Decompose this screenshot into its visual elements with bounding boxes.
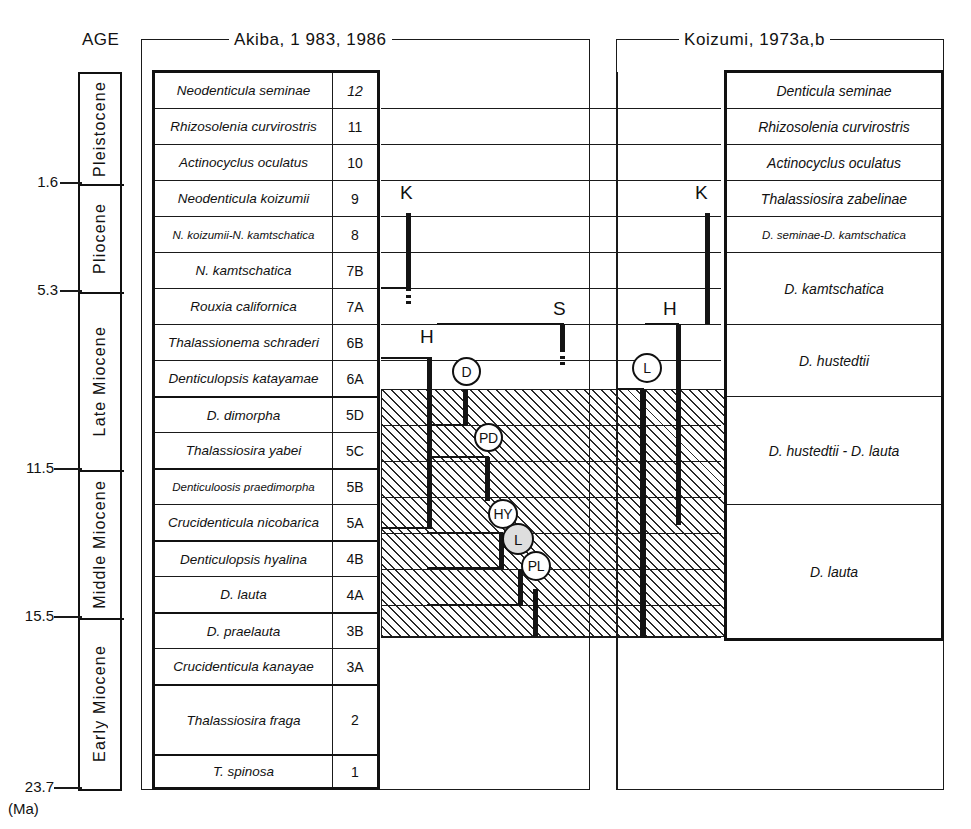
circle-marker-d[interactable]: D: [452, 357, 481, 386]
diagram-canvas: AGE Pleistocene Pliocene Late Miocene Mi…: [0, 0, 971, 829]
tie-line: [381, 360, 721, 361]
marker-label: PL: [528, 558, 545, 574]
bar-dash: [406, 295, 411, 298]
epoch-cell-middle-miocene: Middle Miocene: [80, 470, 120, 618]
correlation-bar-h-left: [427, 357, 432, 529]
table-row[interactable]: D. praelauta 3B: [155, 612, 377, 648]
zone-name: Denticula seminae: [727, 83, 941, 99]
akiba-header-label: Akiba, 1 983, 1986: [229, 30, 392, 50]
zone-name: Actinocyclus oculatus: [727, 155, 941, 171]
table-row[interactable]: Crucidenticula kanayae 3A: [155, 648, 377, 684]
table-row[interactable]: N. kamtschatica 7B: [155, 252, 377, 288]
age-tick-1.6: 1.6: [8, 173, 58, 190]
correlation-bar-d: [463, 389, 468, 425]
correlation-elbow-hy-bottom: [427, 567, 503, 569]
table-row[interactable]: D. lauta: [727, 504, 941, 638]
table-row[interactable]: Denticulopsis hyalina 4B: [155, 540, 377, 576]
gap-guide-line: [589, 72, 590, 790]
marker-label: L: [643, 360, 651, 376]
correlation-elbow-h-right: [645, 323, 679, 325]
circle-marker-pd[interactable]: PD: [474, 423, 503, 452]
table-row[interactable]: D. kamtschatica: [727, 252, 941, 324]
table-row[interactable]: D. hustedtii: [727, 324, 941, 396]
overlap-hatched-region: [381, 389, 725, 637]
akiba-zone-table: Neodenticula seminae 12 Rhizosolenia cur…: [152, 70, 380, 790]
zone-name: N. koizumii-N. kamtschatica: [155, 229, 332, 241]
table-row[interactable]: Rhizosolenia curvirostris 11: [155, 108, 377, 144]
zone-name: N. kamtschatica: [155, 263, 332, 278]
koizumi-zone-table: Denticula seminae Rhizosolenia curvirost…: [724, 70, 944, 641]
table-row[interactable]: Thalassionema schraderi 6B: [155, 324, 377, 360]
zone-name: D. lauta: [727, 564, 941, 580]
table-row[interactable]: Denticulopsis katayamae 6A: [155, 360, 377, 396]
correlation-elbow-l-right: [617, 388, 644, 390]
age-tick-mark: [54, 468, 82, 470]
table-row[interactable]: D. dimorpha 5D: [155, 396, 377, 432]
table-row[interactable]: Crucidenticula nicobarica 5A: [155, 504, 377, 540]
tie-line: [381, 569, 721, 570]
table-row[interactable]: Actinocyclus oculatus: [727, 144, 941, 180]
zone-name: D. praelauta: [155, 624, 332, 639]
zone-name: D. hustedtii - D. lauta: [727, 443, 941, 459]
zone-number: 4A: [332, 577, 377, 612]
table-row[interactable]: Thalassiosira yabei 5C: [155, 432, 377, 468]
table-row[interactable]: N. koizumii-N. kamtschatica 8: [155, 216, 377, 252]
zone-number: 2: [332, 686, 377, 754]
zone-number: 5D: [332, 398, 377, 432]
table-row[interactable]: Neodenticula seminae 12: [155, 73, 377, 108]
table-row[interactable]: Thalassiosira zabelinae: [727, 180, 941, 216]
zone-number: 5A: [332, 505, 377, 540]
table-row[interactable]: D. hustedtii - D. lauta: [727, 396, 941, 504]
tie-line: [381, 389, 721, 390]
epoch-label: Pleistocene: [91, 81, 109, 177]
marker-label: PD: [479, 430, 498, 446]
table-row[interactable]: Neodenticula koizumii 9: [155, 180, 377, 216]
table-row[interactable]: D. seminae-D. kamtschatica: [727, 216, 941, 252]
bar-label-k-left: K: [400, 182, 413, 204]
circle-marker-l-center[interactable]: L: [502, 523, 534, 555]
zone-name: Rhizosolenia curvirostris: [727, 119, 941, 135]
marker-label: D: [462, 364, 472, 380]
bar-label-k-right: K: [695, 182, 708, 204]
age-tick-mark: [54, 787, 82, 789]
correlation-elbow-pl: [427, 604, 522, 606]
epoch-cell-pliocene: Pliocene: [80, 184, 120, 292]
table-row[interactable]: Actinocyclus oculatus 10: [155, 144, 377, 180]
table-row[interactable]: Thalassiosira fraga 2: [155, 684, 377, 754]
age-tick-5.3: 5.3: [8, 281, 58, 298]
zone-number: 11: [332, 109, 377, 144]
tie-line: [381, 461, 721, 462]
bar-dash: [406, 301, 411, 304]
correlation-elbow-h-left: [381, 357, 431, 359]
zone-number: 8: [332, 217, 377, 252]
table-row[interactable]: Denticula seminae: [727, 73, 941, 108]
table-row[interactable]: T. spinosa 1: [155, 754, 377, 787]
zone-name: D. dimorpha: [155, 408, 332, 423]
zone-number: 7B: [332, 253, 377, 288]
age-tick-mark: [54, 616, 82, 618]
age-tick-mark: [60, 182, 82, 184]
zone-name: Denticuloosis praedimorpha: [155, 481, 332, 493]
zone-name: Neodenticula koizumii: [155, 191, 332, 206]
bar-dash: [560, 362, 565, 365]
zone-number: 6A: [332, 361, 377, 396]
table-row[interactable]: Rouxia californica 7A: [155, 288, 377, 324]
zone-number: 9: [332, 181, 377, 216]
table-row[interactable]: Denticuloosis praedimorpha 5B: [155, 468, 377, 504]
epoch-label: Middle Miocene: [91, 480, 109, 609]
zone-number: 5C: [332, 433, 377, 468]
table-row[interactable]: Rhizosolenia curvirostris: [727, 108, 941, 144]
zone-number: 4B: [332, 542, 377, 576]
correlation-elbow-d: [427, 424, 467, 426]
circle-marker-l-right[interactable]: L: [632, 353, 662, 383]
circle-marker-pl[interactable]: PL: [521, 551, 551, 581]
bar-label-h-right: H: [663, 298, 677, 320]
correlation-bar-pl-upper: [518, 569, 523, 605]
table-row[interactable]: D. lauta 4A: [155, 576, 377, 612]
gap-guide-line: [617, 72, 618, 790]
zone-name: Thalassiosira yabei: [155, 443, 332, 458]
age-tick-23.7: 23.7: [2, 778, 54, 795]
marker-label: HY: [494, 506, 513, 522]
bar-label-s: S: [553, 298, 566, 320]
age-unit-label: (Ma): [2, 800, 70, 817]
